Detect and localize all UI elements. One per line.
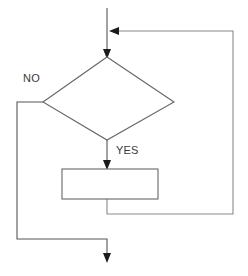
entry-connector (103, 8, 111, 59)
yes-branch-connector (103, 140, 111, 170)
no-branch-arrow-icon (103, 253, 111, 263)
flowchart-diagram (0, 0, 248, 276)
loop-back-arrow-icon (109, 27, 119, 35)
yes-branch-label: YES (116, 144, 139, 156)
no-branch-label: NO (23, 72, 40, 84)
process-box[interactable] (62, 169, 158, 199)
flowchart-canvas: NO YES (0, 0, 248, 276)
decision-diamond[interactable] (43, 57, 174, 140)
